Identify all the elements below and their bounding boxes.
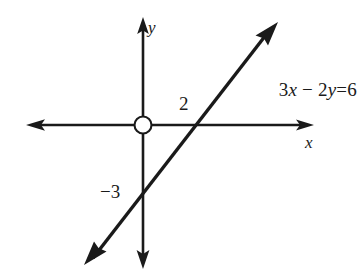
equation-operator: −	[297, 79, 318, 100]
y-intercept-label: −3	[100, 182, 120, 201]
equation-coefficient-y: 2	[318, 79, 328, 100]
y-axis-label: y	[148, 19, 156, 36]
origin-circle-marker-icon	[135, 117, 152, 134]
x-axis-label: x	[305, 134, 313, 151]
line-equation-label: 3x − 2y=6	[259, 61, 357, 118]
plotted-line	[93, 31, 269, 258]
equation-var-x: x	[289, 79, 298, 100]
equation-coefficient-x: 3	[279, 79, 289, 100]
equation-constant: 6	[347, 79, 357, 100]
equation-equals: =	[336, 79, 347, 100]
coordinate-plane-figure: y x 2 −3 3x − 2y=6	[0, 0, 359, 278]
x-intercept-label: 2	[179, 94, 189, 113]
